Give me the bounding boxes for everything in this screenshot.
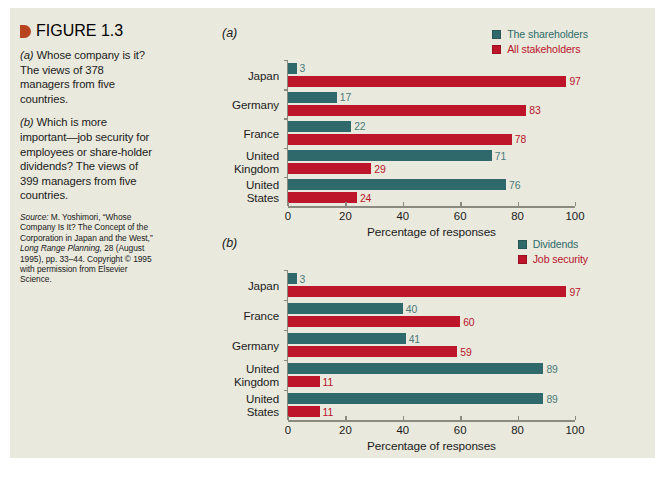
bar-row: 83 <box>288 105 575 116</box>
category-label: United States <box>246 178 279 204</box>
x-axis <box>288 420 575 422</box>
chart-b: (b) Dividends Job security Japan397Franc… <box>160 236 650 446</box>
bar-value-label: 89 <box>546 363 557 374</box>
category-group: Japan397 <box>288 60 575 89</box>
x-axis-tick-label: 20 <box>339 424 352 436</box>
bar-row: 59 <box>288 346 575 357</box>
bar <box>288 393 543 404</box>
bar <box>288 121 351 132</box>
category-label: Germany <box>232 339 279 352</box>
bar <box>288 179 506 190</box>
bar-row: 11 <box>288 376 575 387</box>
bar-value-label: 89 <box>546 393 557 404</box>
bar <box>288 286 566 297</box>
bar-row: 71 <box>288 150 575 161</box>
category-tick <box>284 390 288 391</box>
chart-a-panel-letter: (a) <box>222 26 237 40</box>
bar-row: 97 <box>288 286 575 297</box>
bar-row: 11 <box>288 406 575 417</box>
chart-b-panel-letter: (b) <box>222 236 237 250</box>
chart-a-plot-area: Japan397Germany1783France2278United King… <box>287 60 575 206</box>
bar <box>288 134 512 145</box>
bar-value-label: 29 <box>374 163 385 174</box>
x-axis-tick <box>575 416 576 420</box>
legend-label: All stakeholders <box>507 43 580 55</box>
bar <box>288 363 543 374</box>
source-label: Source: <box>20 212 49 222</box>
bar-value-label: 59 <box>460 346 471 357</box>
bar-value-label: 3 <box>300 273 306 284</box>
x-axis-tick <box>460 416 461 420</box>
caption-paragraph-b: (b) Which is more important—job security… <box>20 115 153 203</box>
source-note: Source: M. Yoshimori, “Whose Company Is … <box>20 212 153 285</box>
category-group: Japan397 <box>288 270 575 300</box>
bar-value-label: 78 <box>515 134 526 145</box>
category-label: Japan <box>248 279 279 292</box>
bar <box>288 92 337 103</box>
legend-swatch-red <box>518 255 527 264</box>
figure-marker-icon <box>20 25 31 38</box>
bar-row: 17 <box>288 92 575 103</box>
x-axis-tick-label: 60 <box>454 424 467 436</box>
category-tick <box>284 177 288 178</box>
x-axis-tick-label: 0 <box>285 210 291 222</box>
caption-a-text: Whose company is it? The views of 378 ma… <box>20 49 145 105</box>
caption-b-text: Which is more important—job security for… <box>20 116 152 201</box>
bar <box>288 406 320 417</box>
bar-row: 40 <box>288 303 575 314</box>
bar-value-label: 83 <box>529 105 540 116</box>
x-axis-tick <box>403 416 404 420</box>
figure-panel: FIGURE 1.3 (a) Whose company is it? The … <box>10 8 655 458</box>
category-tick <box>284 118 288 119</box>
chart-b-legend: Dividends Job security <box>518 238 588 268</box>
category-tick <box>284 60 288 61</box>
bar-value-label: 17 <box>340 92 351 103</box>
bar-row: 29 <box>288 163 575 174</box>
legend-item: All stakeholders <box>492 43 588 55</box>
x-axis-tick <box>345 416 346 420</box>
figure-caption-column: FIGURE 1.3 (a) Whose company is it? The … <box>18 18 153 448</box>
category-label: France <box>244 126 279 139</box>
bar-value-label: 40 <box>406 303 417 314</box>
category-group: United States8911 <box>288 390 575 420</box>
category-group: Germany4159 <box>288 330 575 360</box>
category-group: Germany1783 <box>288 89 575 118</box>
x-axis-tick-label: 60 <box>454 210 467 222</box>
bar-row: 76 <box>288 179 575 190</box>
bar <box>288 376 320 387</box>
category-tick <box>284 89 288 90</box>
figure-label: FIGURE 1.3 <box>36 22 123 40</box>
bar-value-label: 11 <box>323 376 334 387</box>
category-group: United Kingdom7129 <box>288 148 575 177</box>
bar-row: 97 <box>288 76 575 87</box>
bar <box>288 105 526 116</box>
bar-value-label: 60 <box>463 316 474 327</box>
bar-row: 89 <box>288 363 575 374</box>
legend-item: Dividends <box>518 238 588 250</box>
category-label: United States <box>246 392 279 418</box>
source-journal: Long Range Planning, <box>20 243 102 253</box>
x-axis-tick-label: 40 <box>396 210 409 222</box>
bar <box>288 76 566 87</box>
category-group: United Kingdom8911 <box>288 360 575 390</box>
legend-swatch-red <box>492 45 501 54</box>
caption-a-prefix: (a) <box>20 49 34 61</box>
legend-item: Job security <box>518 253 588 265</box>
legend-item: The shareholders <box>492 28 588 40</box>
category-group: France2278 <box>288 118 575 147</box>
bar-row: 89 <box>288 393 575 404</box>
bar-value-label: 41 <box>409 333 420 344</box>
caption-paragraph-a: (a) Whose company is it? The views of 37… <box>20 48 153 106</box>
bar-value-label: 97 <box>569 76 580 87</box>
x-axis-tick-label: 100 <box>565 210 584 222</box>
category-label: United Kingdom <box>234 362 279 388</box>
bar-value-label: 22 <box>354 121 365 132</box>
bar <box>288 333 406 344</box>
x-axis-tick <box>460 202 461 206</box>
legend-label: Job security <box>533 253 588 265</box>
category-label: Germany <box>232 97 279 110</box>
category-label: France <box>244 309 279 322</box>
bar-row: 60 <box>288 316 575 327</box>
category-tick <box>284 330 288 331</box>
category-group: France4060 <box>288 300 575 330</box>
